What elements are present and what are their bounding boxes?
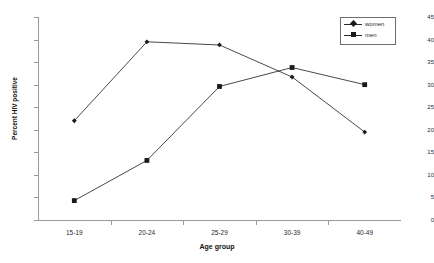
legend-entry-women[interactable]: women <box>344 19 392 30</box>
square-marker-icon <box>362 82 367 87</box>
legend: women men <box>340 17 396 45</box>
legend-label-men: men <box>365 31 377 40</box>
diamond-marker-icon <box>350 20 357 27</box>
square-marker-icon <box>72 198 77 203</box>
legend-entry-men[interactable]: men <box>344 30 392 41</box>
line-chart: 051015202530354045 15-1920-2425-2930-394… <box>0 0 434 263</box>
square-marker-icon <box>351 32 356 37</box>
series-men <box>72 65 367 203</box>
square-marker-icon <box>290 65 295 70</box>
legend-label-women: women <box>365 20 384 29</box>
diamond-marker-icon <box>217 43 222 48</box>
square-marker-icon <box>145 158 150 163</box>
x-axis-title: Age group <box>0 243 434 250</box>
y-axis-title: Percent HIV positive <box>11 49 18 169</box>
square-marker-icon <box>217 84 222 89</box>
